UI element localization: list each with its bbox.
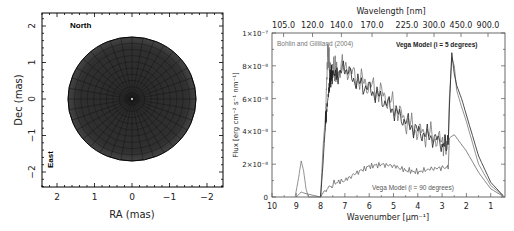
y-tick-label: −1: [27, 129, 37, 142]
wavenumber-axis-label: Wavenumber [μm⁻¹]: [347, 213, 429, 222]
figure: North East 210−1−2 210−1−2 RA (mas) Dec …: [0, 0, 514, 231]
wavenumber-tick-label: 10: [267, 202, 277, 211]
wavelength-tick-label: 225.0: [396, 21, 419, 30]
x-tick-label: 0: [129, 192, 135, 202]
y-tick-label: 2: [27, 23, 37, 29]
left-x-tick-labels: 210−1−2: [54, 192, 214, 202]
right-plot: Wavelength [nm] 105.0120.0140.0170.0225.…: [232, 7, 505, 222]
north-label: North: [70, 21, 91, 30]
wavelength-tick-label: 105.0: [272, 21, 295, 30]
wavenumber-tick-label: 2: [464, 202, 469, 211]
x-tick-label: −1: [163, 192, 176, 202]
right-plot-frame: [272, 33, 505, 197]
flux-tick-label: 6×10⁻⁸: [242, 96, 268, 104]
left-y-axis-label: Dec (mas): [13, 74, 24, 126]
x-tick-label: 2: [54, 192, 60, 202]
wavelength-tick-label: 140.0: [330, 21, 353, 30]
wavenumber-tick-label: 3: [440, 202, 445, 211]
east-label: East: [46, 151, 55, 168]
y-tick-label: 0: [27, 96, 37, 102]
y-tick-label: 1: [27, 60, 37, 66]
flux-tick-label: 4×10⁻⁸: [242, 128, 268, 136]
legend-model-i90: Vega Model (i = 90 degrees): [372, 184, 454, 192]
wavelength-tick-label: 450.0: [450, 21, 473, 30]
x-tick-label: −2: [200, 192, 213, 202]
flux-tick-labels: 02×10⁻⁸4×10⁻⁸6×10⁻⁸8×10⁻⁸1×10⁻⁷: [242, 30, 268, 202]
wavenumber-tick-label: 5: [391, 202, 396, 211]
wavelength-tick-label: 120.0: [301, 21, 324, 30]
wavelength-tick-label: 170.0: [361, 21, 384, 30]
y-tick-label: −2: [27, 165, 37, 178]
flux-tick-label: 0: [264, 194, 268, 202]
legend-model-i5: Vega Model (i = 5 degrees): [396, 41, 477, 49]
flux-tick-label: 1×10⁻⁷: [242, 30, 268, 38]
flux-tick-label: 2×10⁻⁸: [242, 161, 268, 169]
wavenumber-tick-label: 1: [488, 202, 493, 211]
legend-observed: Bohlin and Gilliland (2004): [277, 40, 353, 48]
flux-tick-label: 8×10⁻⁸: [242, 63, 268, 71]
wavelength-tick-label: 900.0: [477, 21, 500, 30]
wavenumber-tick-label: 8: [318, 202, 323, 211]
wavenumber-tick-label: 4: [415, 202, 420, 211]
wavenumber-tick-label: 6: [367, 202, 372, 211]
x-tick-label: 1: [92, 192, 98, 202]
left-plot: North East 210−1−2 210−1−2 RA (mas) Dec …: [13, 13, 223, 220]
left-x-axis-label: RA (mas): [109, 209, 155, 220]
flux-axis-label: Flux [erg cm⁻² s⁻¹ nm⁻¹]: [232, 72, 240, 158]
wavelength-axis-label: Wavelength [nm]: [356, 7, 425, 16]
left-y-tick-labels: 210−1−2: [27, 23, 37, 179]
wavenumber-tick-label: 7: [342, 202, 347, 211]
wavenumber-tick-labels: 10987654321: [267, 202, 493, 211]
wavenumber-tick-label: 9: [294, 202, 299, 211]
wavelength-tick-label: 300.0: [423, 21, 446, 30]
wavelength-tick-labels: 105.0120.0140.0170.0225.0300.0450.0900.0: [272, 21, 499, 30]
disk-center: [131, 98, 133, 100]
